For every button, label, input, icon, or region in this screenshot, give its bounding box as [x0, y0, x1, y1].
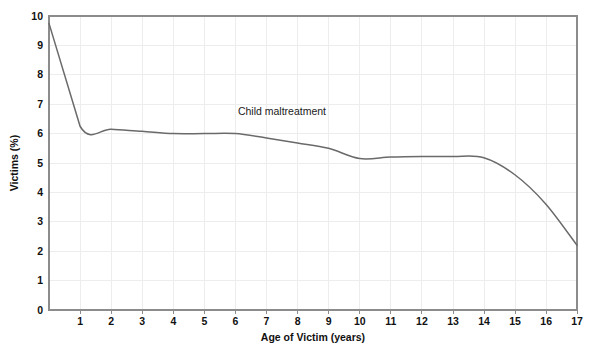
x-tick-label: 4: [170, 315, 176, 327]
y-tick-label: 7: [37, 98, 43, 110]
x-tick-label: 7: [264, 315, 270, 327]
x-tick-label: 9: [326, 315, 332, 327]
x-tick-label: 12: [416, 315, 428, 327]
x-tick-label: 13: [447, 315, 459, 327]
line-chart: 0 1 2 3 4 5 6 7 8 9 10 1 2 3 4 5 6 7 8 9…: [0, 0, 606, 353]
x-tick-label: 10: [354, 315, 366, 327]
x-axis-title: Age of Victim (years): [261, 331, 365, 343]
y-tick-label: 9: [37, 39, 43, 51]
y-axis-title: Victims (%): [8, 135, 20, 191]
y-tick-label: 1: [37, 274, 43, 286]
x-tick-label: 6: [233, 315, 239, 327]
figure-caption: [0, 345, 606, 353]
x-axis-ticks: [80, 310, 577, 314]
y-tick-label: 0: [37, 304, 43, 316]
y-tick-label: 8: [37, 68, 43, 80]
x-tick-label: 16: [540, 315, 552, 327]
x-tick-label: 15: [509, 315, 521, 327]
x-tick-label: 5: [201, 315, 207, 327]
x-tick-label: 14: [478, 315, 490, 327]
y-tick-label: 3: [37, 215, 43, 227]
x-tick-label: 11: [385, 315, 396, 327]
data-series-line: [49, 23, 577, 245]
y-tick-label: 2: [37, 245, 43, 257]
y-tick-label: 6: [37, 127, 43, 139]
x-tick-label: 3: [139, 315, 145, 327]
x-tick-label: 17: [571, 315, 583, 327]
y-axis-tick-labels: 0 1 2 3 4 5 6 7 8 9 10: [31, 10, 43, 316]
series-annotation-label: Child maltreatment: [238, 105, 326, 117]
y-tick-label: 10: [31, 10, 43, 22]
x-tick-label: 1: [77, 315, 83, 327]
x-tick-label: 2: [108, 315, 114, 327]
y-tick-label: 4: [37, 186, 43, 198]
figure-container: 0 1 2 3 4 5 6 7 8 9 10 1 2 3 4 5 6 7 8 9…: [0, 0, 606, 353]
y-tick-label: 5: [37, 157, 43, 169]
x-axis-tick-labels: 1 2 3 4 5 6 7 8 9 10 11 12 13 14 15 16 1…: [77, 315, 583, 327]
x-tick-label: 8: [295, 315, 301, 327]
